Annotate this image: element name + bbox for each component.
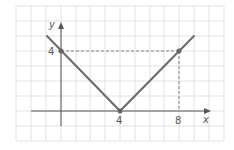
x-axis-label: x xyxy=(202,114,209,125)
graph-canvas: y x 4 4 8 xyxy=(0,0,234,150)
y-axis-arrow-icon xyxy=(58,22,64,29)
point-8-4 xyxy=(177,49,182,54)
y-axis-label: y xyxy=(48,19,56,30)
y-tick-4: 4 xyxy=(48,46,54,57)
graph-y-abs-x-minus-4 xyxy=(47,36,194,111)
point-4-0 xyxy=(118,109,123,114)
point-0-4 xyxy=(59,49,64,54)
x-tick-4: 4 xyxy=(116,115,122,126)
x-tick-8: 8 xyxy=(175,115,181,126)
